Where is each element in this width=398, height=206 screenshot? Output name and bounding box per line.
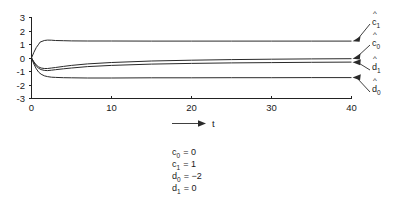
caption-c1-rest: = 1 (183, 159, 196, 169)
x-axis-title: t (212, 118, 215, 129)
arrowhead-c1hat (353, 36, 361, 42)
caption-line-d0: d0= −2 (172, 171, 202, 183)
caption-d0-rest: = −2 (184, 171, 202, 181)
x-tick-label-10: 10 (106, 102, 117, 113)
c0hat-subscript: 0 (377, 43, 381, 50)
d1hat-subscript: 1 (377, 67, 381, 74)
x-tick-label-0: 0 (29, 102, 34, 113)
caption-d0-sub: 0 (177, 176, 181, 183)
d0hat-label: d0 (372, 84, 381, 96)
caption-line-c0: c0= 0 (172, 147, 196, 159)
arrowhead-d0hat (353, 74, 361, 80)
c1hat-subscript: 1 (377, 22, 381, 29)
y-tick-label-minus1: -1 (17, 66, 25, 77)
d0hat-subscript: 0 (377, 89, 381, 96)
y-tick-label-0: 0 (20, 53, 25, 64)
caption-line-d1: d1= 0 (172, 183, 196, 195)
caption-c1-sub: 1 (177, 164, 181, 171)
caption-d1-rest: = 0 (184, 183, 197, 193)
c1hat-label: c1 (372, 17, 381, 29)
x-axis-arrowhead (198, 120, 206, 126)
y-tick-label-2: 2 (20, 26, 25, 37)
y-tick-label-1: 1 (20, 39, 25, 50)
chart-canvas: 3 2 1 0 -1 -2 -3 0 10 20 30 40 (0, 0, 398, 206)
arrowhead-d1hat (353, 59, 361, 65)
y-tick-label-minus2: -2 (17, 80, 25, 91)
caption-line-c1: c1= 1 (172, 159, 196, 171)
curve-d0hat (32, 58, 352, 78)
x-tick-label-30: 30 (266, 102, 277, 113)
caption-c0-rest: = 0 (183, 147, 196, 157)
convergence-plot-figure: 3 2 1 0 -1 -2 -3 0 10 20 30 40 (0, 0, 398, 206)
x-tick-label-20: 20 (186, 102, 197, 113)
curve-c1hat (32, 40, 352, 58)
x-tick-label-40: 40 (346, 102, 357, 113)
y-tick-label-3: 3 (20, 12, 25, 23)
caption-d1-sub: 1 (177, 188, 181, 195)
leader-d0hat (357, 78, 370, 92)
c0hat-label: c0 (372, 38, 381, 50)
arrowhead-c0hat (353, 54, 361, 60)
caption-c0-sub: 0 (177, 152, 181, 159)
y-tick-label-minus3: -3 (17, 93, 25, 104)
d1hat-label: d1 (372, 62, 381, 74)
